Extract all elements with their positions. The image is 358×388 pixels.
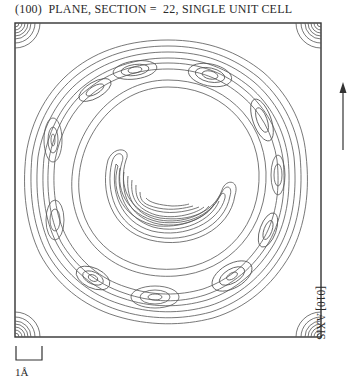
up-arrow-icon bbox=[340, 82, 347, 150]
contour-plot bbox=[0, 0, 358, 388]
scale-bar bbox=[16, 346, 42, 360]
axis-label: [010] AXIS bbox=[315, 286, 327, 340]
central-crescent bbox=[105, 150, 236, 243]
plot-frame bbox=[15, 23, 321, 337]
outer-ring-contours bbox=[25, 40, 308, 324]
corner-peak-top-left bbox=[0, 0, 40, 48]
scale-bar-label: 1Å bbox=[15, 366, 28, 378]
